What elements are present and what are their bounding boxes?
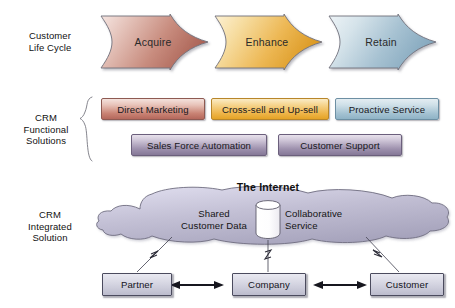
connector-cloud-to-customer <box>366 237 399 272</box>
row-label-integrated-line1: CRM <box>8 209 92 221</box>
cloud-label-shared-line2: Customer Data <box>173 220 255 232</box>
functional-box-customer-support[interactable]: Customer Support <box>278 134 402 156</box>
cloud-label-collaborative-line1: Collaborative <box>285 208 371 220</box>
connector-cloud-to-company <box>265 240 271 272</box>
peer-link-partner-company <box>170 281 224 289</box>
row-label-life-cycle-line1: Customer <box>8 30 92 42</box>
peer-link-company-customer <box>313 281 367 289</box>
row-label-functional-line2: Functional <box>8 124 84 136</box>
cloud-label-shared-line1: Shared <box>173 208 255 220</box>
node-box-customer[interactable]: Customer <box>370 273 444 296</box>
row-label-life-cycle: Customer Life Cycle <box>8 30 92 53</box>
functional-box-proactive-service[interactable]: Proactive Service <box>335 98 439 120</box>
life-cycle-label-retain: Retain <box>346 36 416 48</box>
row-label-functional-line1: CRM <box>8 112 84 124</box>
row-label-functional-line3: Solutions <box>8 135 84 147</box>
life-cycle-label-acquire: Acquire <box>118 36 188 48</box>
functional-box-cross-sell-and-up-sell[interactable]: Cross-sell and Up-sell <box>211 98 329 120</box>
cloud-label-shared-customer-data: Shared Customer Data <box>173 208 255 231</box>
internet-title: The Internet <box>198 181 338 193</box>
row-label-integrated: CRM Integrated Solution <box>8 209 92 244</box>
database-cylinder-icon <box>256 201 280 239</box>
row-label-integrated-line2: Integrated <box>8 221 92 233</box>
row-label-integrated-line3: Solution <box>8 232 92 244</box>
functional-box-direct-marketing[interactable]: Direct Marketing <box>101 98 205 120</box>
cloud-label-collaborative-service: Collaborative Service <box>285 208 371 231</box>
cloud-label-collaborative-line2: Service <box>285 220 371 232</box>
node-box-company[interactable]: Company <box>232 273 306 296</box>
functional-box-sales-force-automation[interactable]: Sales Force Automation <box>131 134 267 156</box>
diagram-canvas: Customer Life Cycle CRM Functional Solut… <box>0 0 455 308</box>
life-cycle-label-enhance: Enhance <box>232 36 302 48</box>
row-label-life-cycle-line2: Life Cycle <box>8 42 92 54</box>
connector-cloud-to-partner <box>137 237 172 272</box>
node-box-partner[interactable]: Partner <box>102 273 172 296</box>
row-label-functional: CRM Functional Solutions <box>8 112 84 147</box>
